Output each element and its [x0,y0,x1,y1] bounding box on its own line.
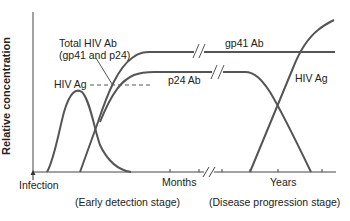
p24-ab-label: p24 Ab [168,75,201,87]
hiv-ag-late-label: HIV Ag [295,73,328,85]
y-axis-label: Relative concentration [0,37,12,155]
hiv-ag-early-curve [47,91,131,172]
total-ab-label-line2: (gp41 and p24) [59,50,130,62]
gp41-ab-label: gp41 Ab [225,38,264,50]
p24-break-icon [211,65,224,79]
hiv-ag-early-label: HIV Ag [54,79,87,91]
x-axis-break-icon [203,167,215,177]
months-label: Months [162,177,196,189]
progression-stage-label: (Disease progression stage) [209,197,340,209]
total-ab-label-line1: Total HIV Ab [59,38,117,50]
total-ab-pointer-line [96,58,112,84]
years-label: Years [270,177,296,189]
hiv-serology-diagram: Relative concentration Total HIV Ab (gp4… [0,0,350,221]
p24-ab-curve-right [223,72,311,172]
infection-label: Infection [19,180,59,192]
early-stage-label: (Early detection stage) [75,197,180,209]
gp41-ab-curve-left [80,52,194,172]
gp41-break-icon [193,44,205,58]
